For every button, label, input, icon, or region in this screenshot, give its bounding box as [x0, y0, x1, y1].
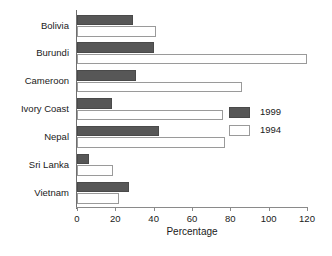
legend-item-1994: 1994	[229, 122, 309, 140]
x-tick-label: 0	[74, 213, 79, 224]
x-tick	[307, 207, 308, 211]
category-label: Nepal	[44, 132, 69, 142]
x-tick-label: 20	[110, 213, 121, 224]
bar-1999	[77, 42, 154, 53]
bar-1994	[77, 110, 223, 121]
bar-1999	[77, 182, 129, 193]
legend-swatch-1994	[229, 125, 250, 136]
legend-label-1999: 1999	[260, 106, 281, 118]
horizontal-bar-chart: BoliviaBurundiCameroonIvory CoastNepalSr…	[0, 0, 332, 256]
bar-1994	[77, 165, 113, 176]
bar-1999	[77, 154, 89, 165]
x-tick	[192, 207, 193, 211]
x-tick	[77, 207, 78, 211]
bar-1999	[77, 98, 112, 109]
x-tick	[115, 207, 116, 211]
category-label: Burundi	[36, 48, 69, 58]
category-label: Sri Lanka	[29, 160, 69, 170]
x-tick	[154, 207, 155, 211]
bar-1994	[77, 26, 156, 37]
legend-item-1999: 1999	[229, 104, 309, 122]
legend-label-1994: 1994	[260, 124, 281, 136]
category-axis-labels: BoliviaBurundiCameroonIvory CoastNepalSr…	[0, 12, 73, 207]
legend-swatch-1999	[229, 107, 250, 118]
x-tick-label: 60	[187, 213, 198, 224]
category-label: Vietnam	[34, 188, 69, 198]
bar-1994	[77, 54, 307, 65]
x-axis-title: Percentage	[77, 226, 307, 237]
bar-1994	[77, 137, 225, 148]
bar-1999	[77, 70, 136, 81]
category-label: Cameroon	[25, 76, 69, 86]
bar-1999	[77, 15, 133, 26]
x-tick	[230, 207, 231, 211]
legend: 1999 1994	[229, 104, 309, 140]
bar-1994	[77, 193, 119, 204]
bar-1994	[77, 82, 242, 93]
x-tick-label: 100	[261, 213, 277, 224]
bar-1999	[77, 126, 159, 137]
x-tick-label: 40	[148, 213, 159, 224]
x-tick-label: 120	[299, 213, 315, 224]
category-label: Ivory Coast	[21, 104, 69, 114]
x-tick-label: 80	[225, 213, 236, 224]
category-label: Bolivia	[41, 21, 69, 31]
x-tick	[269, 207, 270, 211]
